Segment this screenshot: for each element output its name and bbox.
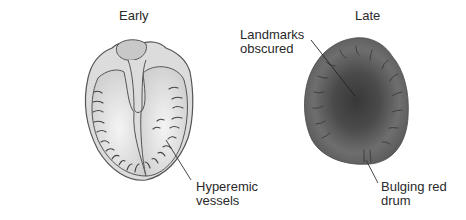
label-hyperemic-vessels: Hyperemic vessels	[196, 180, 258, 208]
label-bulging-red-drum: Bulging red drum	[381, 180, 447, 208]
label-landmarks-obscured: Landmarks obscured	[240, 28, 304, 56]
panel-title-early: Early	[119, 9, 149, 23]
late-drum-body	[305, 38, 409, 165]
panel-title-late: Late	[355, 9, 380, 23]
early-eardrum-illustration	[85, 40, 192, 180]
early-right-lobe	[141, 67, 188, 176]
late-eardrum-illustration	[305, 38, 409, 183]
